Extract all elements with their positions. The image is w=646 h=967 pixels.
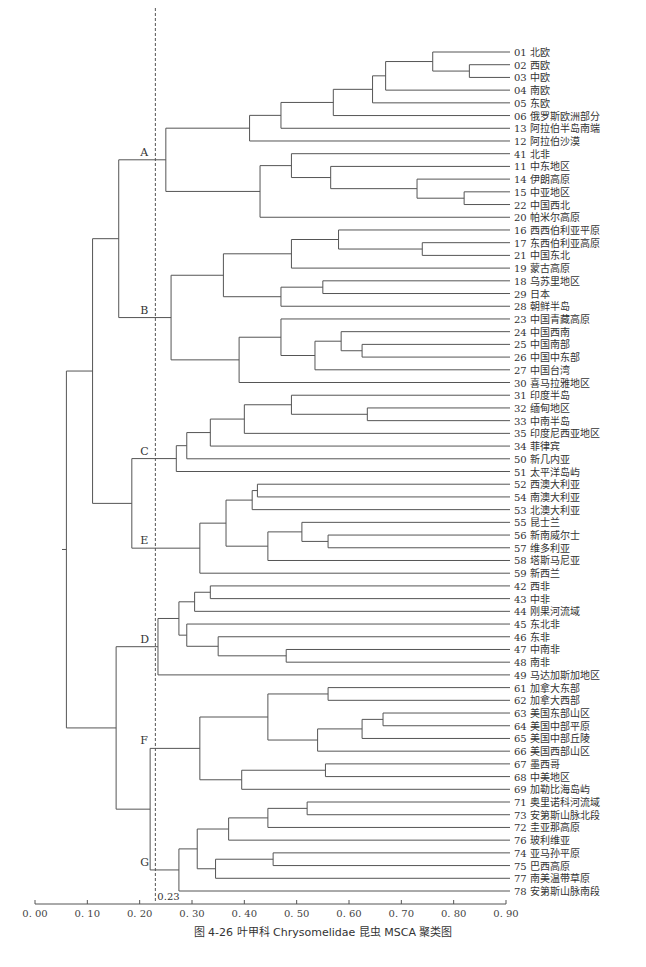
x-tick-label: 0. 40 <box>232 908 257 919</box>
leaf-label: 68 中美地区 <box>514 771 570 783</box>
leaf-label: 13 阿拉伯半岛南端 <box>514 122 600 134</box>
leaf-label: 34 菲律宾 <box>514 440 560 452</box>
leaf-label: 22 中国西北 <box>514 199 570 211</box>
leaf-label: 74 亚马孙平原 <box>514 847 580 859</box>
leaf-label: 20 帕米尔高原 <box>514 211 580 223</box>
leaf-label: 46 东非 <box>514 631 550 643</box>
cluster-labels: ABCEDFG <box>139 146 149 869</box>
leaf-label: 31 印度半岛 <box>514 389 570 401</box>
leaf-label: 16 西西伯利亚平原 <box>514 224 600 236</box>
leaf-label: 03 中欧 <box>514 71 550 83</box>
leaf-label: 44 刚果河流域 <box>514 605 580 617</box>
leaf-label: 55 昆士兰 <box>514 516 560 528</box>
leaf-label: 02 西欧 <box>514 60 550 71</box>
x-tick-label: 0. 90 <box>493 908 518 919</box>
dendrogram-chart: 0.23 01 北欧02 西欧03 中欧04 南欧05 东欧06 俄罗斯欧洲部分… <box>0 0 646 920</box>
leaf-label: 27 中国台湾 <box>514 364 570 376</box>
cluster-label-A: A <box>139 146 149 159</box>
leaf-label: 24 中国西南 <box>514 326 570 338</box>
leaf-label: 45 东北非 <box>514 618 560 630</box>
leaf-label: 12 阿拉伯沙漠 <box>514 135 580 147</box>
leaf-label: 77 南美温带草原 <box>514 872 590 884</box>
leaf-label: 61 加拿大东部 <box>514 682 580 694</box>
leaf-label: 28 朝鲜半岛 <box>514 300 570 312</box>
cluster-label-C: C <box>140 445 148 458</box>
leaf-label: 72 圭亚那高原 <box>514 821 580 833</box>
x-axis: 0. 000. 100. 200. 300. 400. 500. 600. 70… <box>22 900 518 919</box>
leaf-label: 01 北欧 <box>514 47 550 58</box>
cluster-label-D: D <box>140 633 149 646</box>
leaf-label: 11 中东地区 <box>514 160 570 172</box>
cluster-label-E: E <box>140 534 148 547</box>
leaf-label: 15 中亚地区 <box>514 186 570 198</box>
threshold-label: 0.23 <box>157 891 179 902</box>
leaf-label: 05 东欧 <box>514 97 550 109</box>
leaf-label: 17 东西伯利亚高原 <box>514 237 600 249</box>
leaf-label: 19 蒙古高原 <box>514 262 570 274</box>
x-tick-label: 0. 70 <box>389 908 414 919</box>
leaf-label: 57 维多利亚 <box>514 542 570 554</box>
leaf-label: 62 加拿大西部 <box>514 694 580 706</box>
leaf-label: 23 中国青藏高原 <box>514 313 590 325</box>
leaf-label: 50 新几内亚 <box>514 453 570 465</box>
dendrogram-branches <box>62 52 510 891</box>
leaf-label: 18 乌苏里地区 <box>514 275 580 287</box>
leaf-label: 30 喜马拉雅地区 <box>514 377 590 389</box>
x-tick-label: 0. 20 <box>127 908 152 919</box>
leaf-label: 63 美国东部山区 <box>514 707 590 719</box>
leaf-label: 47 中南非 <box>514 643 560 655</box>
leaf-label: 78 安第斯山脉南段 <box>514 885 600 897</box>
leaf-label: 58 塔斯马尼亚 <box>514 554 580 566</box>
leaf-label: 29 日本 <box>514 288 550 300</box>
cluster-label-F: F <box>140 734 148 747</box>
leaf-label: 49 马达加斯加地区 <box>514 669 600 681</box>
leaf-label: 69 加勒比海岛屿 <box>514 783 590 795</box>
x-tick-label: 0. 30 <box>179 908 204 919</box>
x-tick-label: 0. 80 <box>441 908 466 919</box>
x-tick-label: 0. 10 <box>75 908 100 919</box>
leaf-label: 64 美国中部平原 <box>514 720 590 732</box>
leaf-label: 41 北非 <box>514 149 550 160</box>
leaf-label: 76 玻利维亚 <box>514 834 570 846</box>
leaf-label: 14 伊朗高原 <box>514 173 570 185</box>
leaf-label: 52 西澳大利亚 <box>514 478 580 490</box>
x-tick-label: 0. 00 <box>22 908 47 919</box>
x-tick-label: 0. 50 <box>284 908 309 919</box>
figure-caption: 图 4-26 叶甲科 Chrysomelidae 昆虫 MSCA 聚类图 <box>0 923 646 939</box>
leaf-label: 66 美国西部山区 <box>514 745 590 757</box>
leaf-label: 06 俄罗斯欧洲部分 <box>514 110 600 122</box>
leaf-label: 51 太平洋岛屿 <box>514 466 580 478</box>
leaf-label: 32 缅甸地区 <box>514 402 570 414</box>
leaf-label: 56 新南威尔士 <box>514 529 580 541</box>
leaf-label: 75 巴西高原 <box>514 860 570 872</box>
leaf-label: 48 南非 <box>514 656 550 668</box>
x-tick-label: 0. 60 <box>336 908 361 919</box>
leaf-label: 35 印度尼西亚地区 <box>514 427 600 439</box>
leaf-label: 73 安第斯山脉北段 <box>514 809 600 821</box>
leaf-label: 26 中国中东部 <box>514 351 580 363</box>
leaf-label: 67 墨西哥 <box>514 759 560 770</box>
leaf-label: 43 中非 <box>514 593 550 605</box>
leaf-label: 42 西非 <box>514 581 550 592</box>
leaf-label: 59 新西兰 <box>514 567 560 579</box>
leaf-label: 25 中国南部 <box>514 338 570 350</box>
leaf-labels: 01 北欧02 西欧03 中欧04 南欧05 东欧06 俄罗斯欧洲部分13 阿拉… <box>514 47 600 897</box>
leaf-label: 71 奥里诺科河流域 <box>514 796 600 808</box>
leaf-label: 65 美国中部丘陵 <box>514 732 590 744</box>
cluster-label-B: B <box>140 304 148 317</box>
leaf-label: 21 中国东北 <box>514 249 570 261</box>
leaf-label: 04 南欧 <box>514 84 550 96</box>
leaf-label: 54 南澳大利亚 <box>514 491 580 503</box>
leaf-label: 53 北澳大利亚 <box>514 504 580 516</box>
cluster-label-G: G <box>140 856 149 869</box>
leaf-label: 33 中南半岛 <box>514 415 570 427</box>
